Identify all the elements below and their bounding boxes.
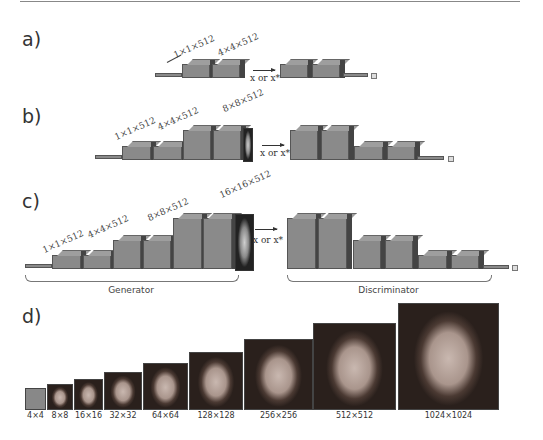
res-label: 16×16 [74,411,103,420]
gen-block [113,240,141,269]
face-4x4 [25,388,46,410]
disc-output-bar [483,265,509,269]
dim-label: 1×1×512 [113,115,157,142]
res-label: 256×256 [244,411,313,420]
disc-block [387,146,415,160]
gen-block [122,146,151,160]
disc-block [318,218,347,269]
latent-input-bar [25,264,52,268]
gen-block [203,218,232,269]
face-64x64 [143,363,188,410]
gen-block [83,255,111,269]
gen-block-4x4-a2 [212,64,240,78]
res-label: 512×512 [313,411,396,420]
dim-label: 4×4×512 [216,31,260,58]
panel-b-label: b) [22,105,41,127]
input-label-b: x or x* [260,148,290,158]
disc-output-bar [417,156,444,160]
latent-input-bar [155,73,182,77]
disc-block [354,146,383,160]
face-16x16 [74,379,103,410]
panel-d-label: d) [22,305,41,327]
generator-label: Generator [25,285,237,295]
res-label: 4×4 [25,411,46,420]
disc-block [287,218,316,269]
latent-input-bar [95,155,122,159]
disc-block-a2 [312,64,340,78]
generator-brace [25,275,239,282]
disc-output-bar [343,73,368,77]
res-label: 32×32 [104,411,142,420]
gen-block [173,218,202,269]
top-rule [20,1,520,2]
disc-block [418,255,447,269]
gen-block [143,240,171,269]
dim-label: 16×16×512 [218,168,272,200]
input-label-a: x or x* [250,73,280,83]
arrow-icon [255,229,277,230]
dim-label: 1×1×512 [172,33,216,60]
panel-c-label: c) [22,190,40,212]
arrow-icon [253,70,275,71]
output-marker [448,156,454,162]
face-512x512 [313,323,396,410]
res-label: 1024×1024 [398,411,499,420]
output-marker [371,73,377,79]
discriminator-brace [287,275,492,282]
disc-block [451,255,479,269]
arrow-icon [262,145,284,146]
gen-block [213,130,241,160]
res-label: 128×128 [189,411,243,420]
disc-block [353,240,381,269]
disc-block [321,130,349,160]
face-128x128 [189,352,243,410]
res-label: 8×8 [47,411,73,420]
disc-block-a [280,64,308,78]
res-label: 64×64 [143,411,188,420]
panel-a-label: a) [22,28,41,50]
gen-block [153,146,182,160]
generated-image [243,128,253,162]
face-8x8 [47,384,73,410]
dim-label: 8×8×512 [221,87,265,114]
gen-block-4x4-a [182,64,210,78]
gen-block [52,255,81,269]
face-256x256 [244,339,313,410]
gen-block [183,130,211,160]
generated-image [235,214,254,271]
face-32x32 [104,372,142,410]
output-marker [512,265,518,271]
face-1024x1024 [398,303,499,410]
input-label-c: x or x* [253,235,283,245]
discriminator-label: Discriminator [287,285,490,295]
disc-block [290,130,318,160]
disc-block [385,240,413,269]
